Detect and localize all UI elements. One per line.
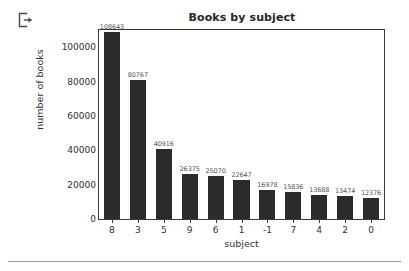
bar xyxy=(130,80,146,219)
x-tick-mark xyxy=(190,220,191,223)
y-tick-label: 0 xyxy=(40,214,96,224)
x-axis-ticks: 835961-17420 xyxy=(99,220,384,238)
x-tick-label: 8 xyxy=(109,225,115,235)
bar-value-label: 80767 xyxy=(128,71,148,79)
bar xyxy=(104,32,120,219)
bar-value-label: 12376 xyxy=(361,189,381,197)
y-axis-ticks: 020000400006000080000100000 xyxy=(38,29,96,220)
y-tick-label: 40000 xyxy=(40,145,96,155)
x-tick-mark xyxy=(345,220,346,223)
x-tick-label: 7 xyxy=(290,225,296,235)
bar-value-label: 25070 xyxy=(205,167,225,175)
y-tick-label: 100000 xyxy=(40,42,96,52)
bar-value-label: 15836 xyxy=(283,183,303,191)
bar xyxy=(311,195,327,219)
chart-title: Books by subject xyxy=(98,11,386,24)
y-tick-label: 20000 xyxy=(40,180,96,190)
bar xyxy=(363,198,379,219)
x-tick-mark xyxy=(164,220,165,223)
bar-value-label: 16978 xyxy=(257,181,277,189)
x-tick-label: 9 xyxy=(187,225,193,235)
x-tick-label: 3 xyxy=(135,225,141,235)
bar xyxy=(156,149,172,219)
x-tick-label: 2 xyxy=(342,225,348,235)
bar xyxy=(233,180,249,219)
bar-chart-figure: Books by subject number of books 0200004… xyxy=(0,0,409,250)
x-axis-label: subject xyxy=(98,238,385,249)
y-tick-label: 80000 xyxy=(40,77,96,87)
x-tick-label: 0 xyxy=(368,225,374,235)
x-tick-mark xyxy=(371,220,372,223)
x-tick-mark xyxy=(216,220,217,223)
bar-value-label: 13688 xyxy=(309,186,329,194)
bar xyxy=(208,176,224,219)
bar-value-label: 108643 xyxy=(100,23,124,31)
x-tick-mark xyxy=(267,220,268,223)
x-tick-mark xyxy=(293,220,294,223)
bar-value-label: 13474 xyxy=(335,187,355,195)
bar xyxy=(337,196,353,219)
bar xyxy=(259,190,275,219)
x-tick-label: 1 xyxy=(239,225,245,235)
bar-value-label: 40916 xyxy=(154,140,174,148)
bar xyxy=(182,174,198,219)
x-tick-label: 5 xyxy=(161,225,167,235)
bar-value-label: 22647 xyxy=(231,171,251,179)
bar xyxy=(285,192,301,219)
x-tick-mark xyxy=(138,220,139,223)
x-tick-mark xyxy=(319,220,320,223)
bottom-divider xyxy=(8,261,401,262)
x-tick-mark xyxy=(112,220,113,223)
x-tick-label: 4 xyxy=(316,225,322,235)
plot-area: 1086438076740916263752507022647169781583… xyxy=(99,30,384,219)
bar-value-label: 26375 xyxy=(180,165,200,173)
x-tick-mark xyxy=(242,220,243,223)
y-tick-label: 60000 xyxy=(40,111,96,121)
x-tick-label: -1 xyxy=(263,225,272,235)
x-tick-label: 6 xyxy=(213,225,219,235)
